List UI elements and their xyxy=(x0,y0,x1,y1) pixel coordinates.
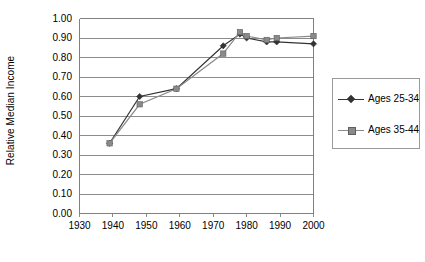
data-point xyxy=(174,86,179,91)
data-point xyxy=(237,29,242,34)
series-line-2 xyxy=(110,32,314,143)
data-point xyxy=(107,141,112,146)
marker-diamond xyxy=(310,41,316,47)
marker-square xyxy=(311,33,316,38)
legend-item-ages-25-34: Ages 25-34 xyxy=(338,92,419,106)
data-point xyxy=(137,102,142,107)
marker-square xyxy=(107,141,112,146)
data-point xyxy=(221,51,226,56)
marker-square xyxy=(274,35,279,40)
marker-square xyxy=(221,51,226,56)
data-point xyxy=(311,33,316,38)
legend-marker-diamond xyxy=(347,95,355,103)
data-point xyxy=(137,93,143,99)
chart-legend: Ages 25-34 Ages 35-44 xyxy=(332,78,420,149)
data-point xyxy=(310,41,316,47)
marker-diamond xyxy=(137,93,143,99)
marker-square xyxy=(174,86,179,91)
legend-item-ages-35-44: Ages 35-44 xyxy=(338,123,419,137)
marker-square xyxy=(264,37,269,42)
legend-swatch-ages-35-44 xyxy=(338,125,364,135)
data-point xyxy=(264,37,269,42)
data-point xyxy=(274,35,279,40)
marker-square xyxy=(137,102,142,107)
relative-median-income-chart: Relative Median Income 0.000.100.200.300… xyxy=(0,0,425,262)
legend-swatch-ages-25-34 xyxy=(338,94,364,104)
legend-label-ages-25-34: Ages 25-34 xyxy=(368,94,419,104)
legend-label-ages-35-44: Ages 35-44 xyxy=(368,125,419,135)
data-point xyxy=(244,33,249,38)
series-line-1 xyxy=(110,34,314,143)
marker-square xyxy=(237,29,242,34)
legend-marker-square xyxy=(348,127,356,135)
marker-square xyxy=(244,33,249,38)
